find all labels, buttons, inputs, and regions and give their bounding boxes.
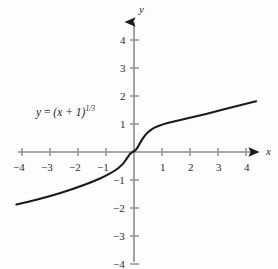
equation-exponent: 1/3 [85,104,95,113]
x-tick-label: −4 [13,162,25,173]
equation-base: (x + 1) [53,106,85,118]
equation-annotation: y = (x + 1)1/3 [36,106,95,119]
y-tick-label: −2 [113,203,125,214]
y-tick-label: 2 [120,91,126,102]
x-tick-label: 3 [216,162,222,173]
y-tick-label: 4 [120,35,126,46]
x-tick-label: −1 [97,162,109,173]
x-axis-label: x [266,146,271,157]
equation-equals: = [41,106,53,118]
x-tick-label: 4 [244,162,250,173]
x-tick-label: 2 [188,162,194,173]
y-tick-label: 1 [120,119,126,130]
y-tick-label: −3 [113,231,125,242]
y-tick-label: 3 [120,63,126,74]
x-tick-label: −2 [69,162,81,173]
coordinate-plane [0,0,278,269]
y-axis-label: y [139,4,144,15]
graph-figure: y = (x + 1)1/3 −4 −3 −2 −1 1 2 3 4 4 3 2… [0,0,278,269]
x-tick-label: 1 [160,162,166,173]
y-tick-label: −4 [113,259,125,269]
y-tick-label: −1 [113,175,125,186]
x-tick-label: −3 [41,162,53,173]
